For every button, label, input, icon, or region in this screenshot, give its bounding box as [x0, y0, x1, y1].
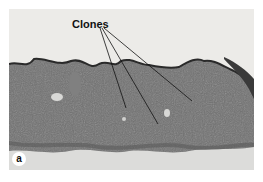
clones-annotation-label: Clones — [72, 18, 109, 30]
panel-label: a — [12, 152, 26, 166]
annotation-leader-lines — [0, 0, 263, 182]
